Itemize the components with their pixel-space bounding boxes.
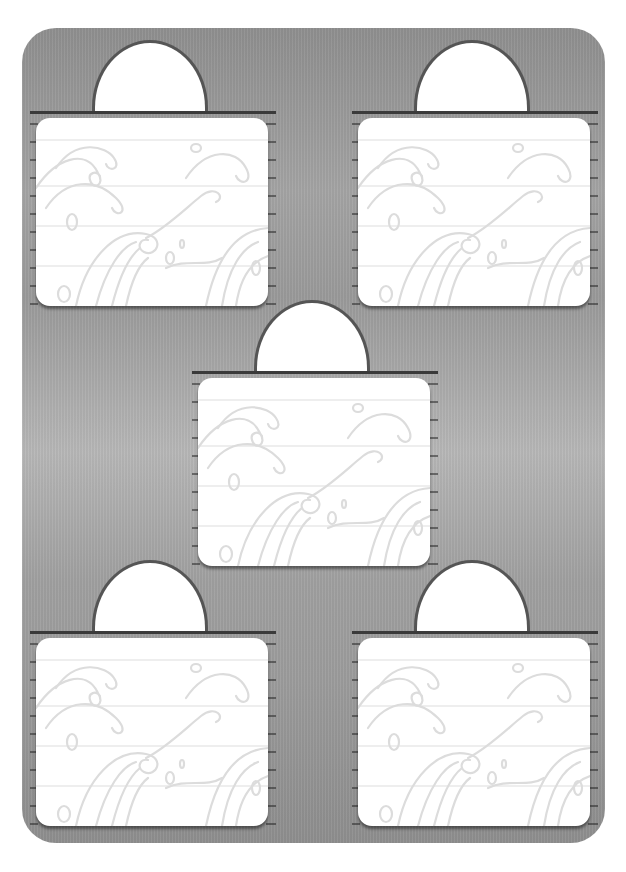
label-area	[36, 118, 268, 306]
label-area	[358, 118, 590, 306]
dome-tab	[254, 300, 370, 372]
wave-pattern-icon	[358, 638, 590, 826]
label-card-bottom-left	[30, 560, 276, 760]
dome-tab	[92, 560, 208, 632]
label-card-bottom-right	[352, 560, 598, 760]
wave-pattern-icon	[198, 378, 430, 566]
label-card-top-left	[30, 40, 276, 240]
dome-tab	[414, 40, 530, 112]
dome-tab	[92, 40, 208, 112]
wave-pattern-icon	[36, 118, 268, 306]
label-area	[36, 638, 268, 826]
wave-pattern-icon	[36, 638, 268, 826]
wave-pattern-icon	[358, 118, 590, 306]
label-card-top-right	[352, 40, 598, 240]
label-area	[358, 638, 590, 826]
dome-tab	[414, 560, 530, 632]
label-card-center	[192, 300, 438, 500]
label-area	[198, 378, 430, 566]
